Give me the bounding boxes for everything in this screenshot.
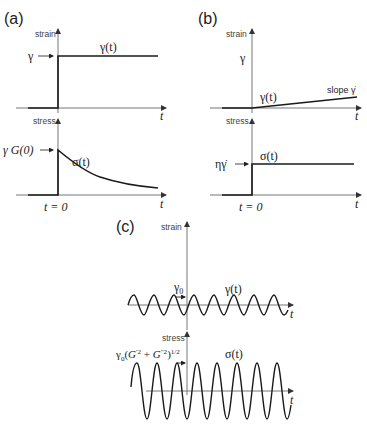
stress-curve-label: σ(t) — [225, 347, 243, 361]
strain-ramp-curve — [222, 97, 357, 108]
strain-amplitude-label: γ0 — [173, 280, 183, 296]
stress-curve-label: σ(t) — [72, 155, 90, 169]
time-label: t — [355, 109, 359, 123]
panel-c-stress-plot: stress γ0(G′2 + G″2)1/2 σ(t) t — [115, 332, 294, 419]
strain-curve-label: γ(t) — [224, 282, 242, 296]
strain-axis-label: strain — [35, 29, 56, 39]
stress-amplitude-label: γ0(G′2 + G″2)1/2 — [115, 348, 180, 363]
time-zero-label: t = 0 — [44, 200, 67, 214]
time-label: t — [160, 197, 164, 211]
time-label: t — [290, 307, 294, 321]
stress-level-label: ηγ̇ — [215, 157, 228, 171]
strain-axis-label: strain — [226, 29, 247, 39]
slope-label: slope γ̇ — [327, 85, 357, 95]
stress-axis-label: stress — [162, 333, 185, 343]
stress-axis-label: stress — [226, 116, 249, 126]
panel-c-strain-plot: strain γ0 γ(t) t — [128, 222, 294, 330]
panel-a: (a) strain γ γ(t) t stress γ G(0) σ(t) t… — [3, 10, 166, 214]
strain-axis-label: strain — [161, 222, 182, 232]
panel-b-label: (b) — [198, 10, 218, 27]
panel-b-stress-plot: stress ηγ̇ σ(t) t t = 0 — [210, 116, 361, 214]
time-label: t — [160, 109, 164, 123]
panel-a-stress-plot: stress γ G(0) σ(t) t t = 0 — [3, 116, 166, 214]
strain-level-label: γ — [27, 49, 34, 63]
panel-a-label: (a) — [4, 10, 24, 27]
rheology-figure: (a) strain γ γ(t) t stress γ G(0) σ(t) t… — [0, 0, 367, 430]
stress-step-curve — [222, 164, 354, 195]
stress-level-label: γ G(0) — [3, 143, 33, 157]
panel-b: (b) strain γ γ(t) slope γ̇ t stress ηγ̇ … — [198, 10, 361, 214]
strain-step-curve — [28, 56, 158, 108]
time-zero-label: t = 0 — [239, 200, 262, 214]
stress-curve-label: σ(t) — [260, 149, 278, 163]
strain-curve-label: γ(t) — [99, 40, 117, 54]
panel-b-strain-plot: strain γ γ(t) slope γ̇ t — [210, 29, 361, 123]
panel-a-strain-plot: strain γ γ(t) t — [16, 29, 166, 123]
strain-level-label: γ — [239, 51, 246, 65]
time-label: t — [290, 393, 294, 407]
stress-relaxation-curve — [28, 150, 158, 195]
panel-c: (c) strain γ0 γ(t) t stress γ0(G′2 + G″2… — [115, 218, 294, 419]
strain-curve-label: γ(t) — [259, 90, 277, 104]
time-label: t — [355, 197, 359, 211]
stress-axis-label: stress — [33, 116, 56, 126]
panel-c-label: (c) — [116, 218, 135, 235]
